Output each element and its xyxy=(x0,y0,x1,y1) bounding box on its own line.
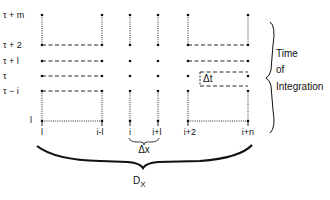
grid-nodes xyxy=(41,14,250,123)
left-horizontal-dashes xyxy=(42,45,102,91)
grid-diagram xyxy=(0,0,330,200)
row-label-tau-plus-2: τ + 2 xyxy=(3,40,22,50)
col-label-i: i xyxy=(129,127,131,137)
side-label-integration: Integration xyxy=(276,81,323,93)
side-label-time: Time xyxy=(276,48,298,60)
right-lower-block xyxy=(188,91,248,121)
delta-x-label: Δx xyxy=(138,145,150,155)
time-brace xyxy=(266,22,274,133)
row-label-tau-plus-m: τ + m xyxy=(3,10,24,20)
right-upper-block xyxy=(188,15,248,45)
column-ticks xyxy=(42,121,248,126)
delta-t-label: Δt xyxy=(203,74,212,84)
side-label-of: of xyxy=(276,64,284,76)
right-horizontal-dashes xyxy=(188,45,248,86)
col-label-i-plus-1: i+l xyxy=(152,127,161,137)
row-label-tau-plus-1: τ + l xyxy=(3,56,19,66)
col-label-i-plus-2: i+2 xyxy=(184,127,196,137)
row-label-1: l xyxy=(30,115,32,125)
middle-verticals xyxy=(130,15,158,121)
row-label-tau: τ xyxy=(3,71,7,81)
col-label-i-minus-1: i-l xyxy=(97,127,104,137)
left-lower-block xyxy=(42,91,102,121)
col-label-i-plus-n: i+n xyxy=(242,127,254,137)
row-label-tau-minus-1: τ − i xyxy=(3,86,19,96)
col-label-1: l xyxy=(41,127,43,137)
domain-label: DX xyxy=(133,176,146,190)
domain-label-subscript: X xyxy=(140,180,145,189)
left-upper-block xyxy=(42,15,102,45)
